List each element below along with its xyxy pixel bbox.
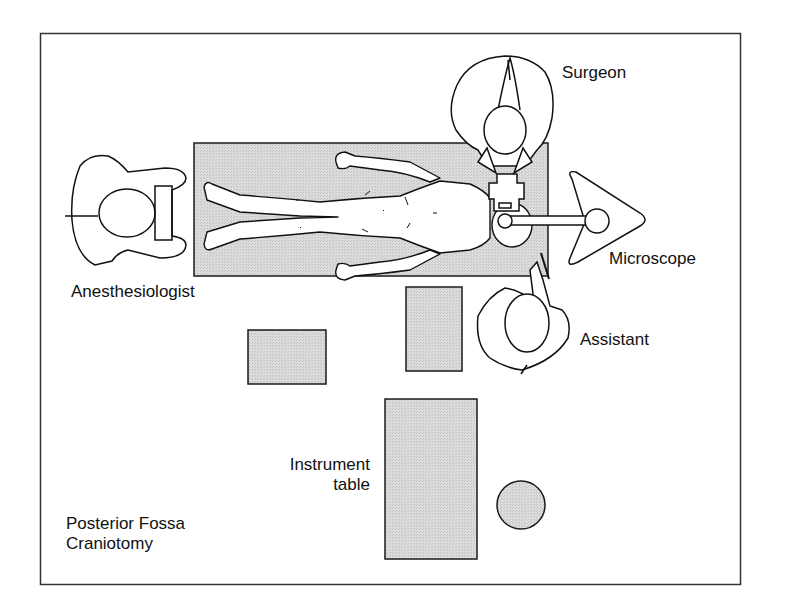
label-surgeon: Surgeon <box>562 63 626 83</box>
or-layout-diagram: Surgeon Microscope Anesthesiologist Assi… <box>0 0 785 607</box>
diagram-title: Posterior Fossa Craniotomy <box>66 514 185 554</box>
label-microscope: Microscope <box>609 249 696 269</box>
diagram-title-line1: Posterior Fossa <box>66 514 185 534</box>
instrument-table <box>385 399 477 559</box>
label-anesthesiologist: Anesthesiologist <box>71 282 195 302</box>
label-assistant: Assistant <box>580 330 649 350</box>
microscope-arm <box>506 216 588 225</box>
microscope-column <box>585 209 609 233</box>
small-table-left <box>248 330 326 384</box>
label-instrument-table-line2: table <box>272 475 370 495</box>
microscope-head <box>498 214 512 228</box>
anesthesiologist-figure <box>65 155 186 265</box>
small-table-center <box>406 287 462 371</box>
label-instrument-table-line1: Instrument <box>272 455 370 475</box>
diagram-title-line2: Craniotomy <box>66 534 185 554</box>
label-instrument-table: Instrument table <box>272 455 370 495</box>
round-stool <box>497 481 545 529</box>
